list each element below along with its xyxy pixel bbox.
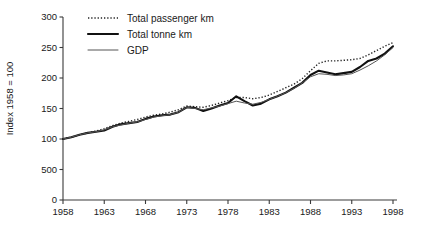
y-tick-label: 150 — [41, 103, 57, 114]
x-tick-label: 1973 — [176, 206, 197, 217]
y-tick-label: 100 — [41, 133, 57, 144]
x-tick-label: 1993 — [341, 206, 362, 217]
x-tick-label: 1963 — [94, 206, 115, 217]
x-tick-label: 1988 — [300, 206, 321, 217]
y-axis-title: Index 1958 = 100 — [4, 62, 15, 136]
y-tick-label: 200 — [41, 72, 57, 83]
chart-axes: 0500100150200250300195819631968197319781… — [41, 11, 403, 217]
series-line-total-passenger-km — [63, 43, 393, 139]
y-tick-label: 0 — [52, 194, 57, 205]
x-tick-label: 1983 — [259, 206, 280, 217]
y-axis-title-text: Index 1958 = 100 — [4, 62, 15, 136]
legend-label-total-tonne-km: Total tonne km — [127, 29, 192, 40]
y-tick-label: 500 — [41, 164, 57, 175]
chart-figure: 0500100150200250300195819631968197319781… — [0, 0, 443, 235]
legend-label-gdp: GDP — [127, 45, 149, 56]
legend-label-total-passenger-km: Total passenger km — [127, 13, 214, 24]
chart-series — [63, 43, 393, 139]
x-tick-label: 1998 — [382, 206, 403, 217]
y-tick-label: 250 — [41, 42, 57, 53]
x-tick-label: 1968 — [135, 206, 156, 217]
chart-legend: Total passenger kmTotal tonne kmGDP — [88, 13, 214, 56]
x-tick-label: 1978 — [217, 206, 238, 217]
y-tick-label: 300 — [41, 11, 57, 22]
x-tick-label: 1958 — [52, 206, 73, 217]
line-chart: 0500100150200250300195819631968197319781… — [0, 0, 443, 235]
